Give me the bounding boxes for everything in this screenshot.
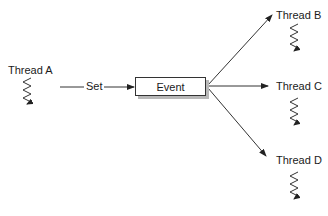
thread-b-label: Thread B (276, 9, 321, 22)
thread-d-label: Thread D (276, 154, 322, 167)
thread-c-zigzag-icon (290, 98, 298, 125)
diagram-canvas (0, 0, 328, 216)
arrow-to-thread-b (208, 15, 272, 85)
thread-d-zigzag-icon (290, 172, 298, 199)
thread-a-zigzag-icon (23, 78, 31, 104)
event-box: Event (135, 77, 206, 96)
thread-c-label: Thread C (276, 80, 322, 93)
arrow-to-thread-d (208, 88, 266, 156)
set-label: Set (86, 80, 103, 93)
thread-b-zigzag-icon (290, 24, 298, 51)
thread-a-label: Thread A (8, 64, 53, 77)
